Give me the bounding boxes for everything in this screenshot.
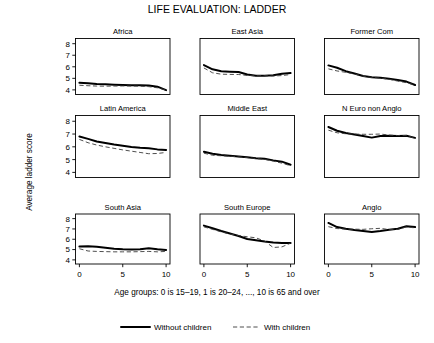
x-tick-label: 5 (245, 270, 250, 279)
panel-east-asia: East Asia (200, 27, 295, 95)
panel-latin-america: Latin America45678 (66, 104, 170, 178)
panel-title: East Asia (231, 27, 263, 36)
panel-title: Middle East (227, 104, 268, 113)
y-tick-label: 5 (66, 156, 71, 165)
x-tick-label: 10 (286, 270, 295, 279)
y-tick-label: 7 (66, 225, 71, 234)
y-tick-label: 5 (66, 74, 71, 83)
panel-title: South Asia (105, 203, 142, 212)
panel-former-com: Former Com (325, 27, 420, 95)
panel-title: Latin America (100, 104, 147, 113)
series-solid (79, 83, 166, 90)
panel-frame (325, 116, 420, 178)
legend-label-without-children: Without children (154, 323, 211, 332)
chart-title: LIFE EVALUATION: LADDER (148, 3, 287, 15)
panel-south-europe: South Europe0510 (200, 203, 296, 280)
series-solid (204, 65, 291, 76)
y-tick-label: 7 (66, 130, 71, 139)
y-tick-label: 8 (66, 117, 71, 126)
series-solid (79, 246, 166, 250)
panel-anglo: Anglo0510 (325, 203, 421, 280)
panel-frame (76, 214, 171, 264)
y-tick-label: 4 (66, 256, 71, 265)
panel-title: South Europe (224, 203, 270, 212)
y-tick-label: 6 (66, 63, 71, 72)
life-evaluation-ladder-figure: LIFE EVALUATION: LADDERAverage ladder sc… (0, 0, 434, 343)
y-tick-label: 6 (66, 143, 71, 152)
x-tick-label: 0 (202, 270, 207, 279)
panel-frame (325, 214, 420, 264)
panel-middle-east: Middle East (200, 104, 295, 178)
panel-africa: Africa45678 (66, 27, 170, 95)
y-tick-label: 4 (66, 86, 71, 95)
x-tick-label: 0 (77, 270, 82, 279)
y-tick-label: 5 (66, 245, 71, 254)
series-solid (204, 152, 291, 165)
x-tick-label: 5 (370, 270, 375, 279)
x-tick-label: 5 (121, 270, 126, 279)
y-tick-label: 4 (66, 168, 71, 177)
panel-title: N Euro non Anglo (342, 104, 402, 113)
chart-legend: Without childrenWith children (121, 323, 310, 332)
series-solid (204, 226, 291, 243)
panel-title: Africa (113, 27, 133, 36)
y-tick-label: 8 (66, 215, 71, 224)
series-solid (328, 127, 415, 138)
y-tick-label: 7 (66, 51, 71, 60)
y-axis-label: Average ladder score (25, 133, 34, 211)
series-solid (79, 137, 166, 150)
panel-title: Anglo (362, 203, 381, 212)
x-tick-label: 10 (162, 270, 171, 279)
legend-label-with-children: With children (264, 323, 310, 332)
x-tick-label: 0 (326, 270, 331, 279)
y-tick-label: 6 (66, 235, 71, 244)
panel-frame (200, 116, 295, 178)
series-solid (328, 223, 415, 232)
x-tick-label: 10 (411, 270, 420, 279)
panel-n-euro-non-anglo: N Euro non Anglo (325, 104, 420, 178)
x-axis-label: Age groups: 0 is 15–19, 1 is 20–24, ...,… (114, 288, 320, 297)
y-tick-label: 8 (66, 40, 71, 49)
panel-frame (200, 39, 295, 95)
panel-title: Former Com (350, 27, 393, 36)
panel-frame (325, 39, 420, 95)
panel-south-asia: South Asia456780510 (66, 203, 172, 280)
